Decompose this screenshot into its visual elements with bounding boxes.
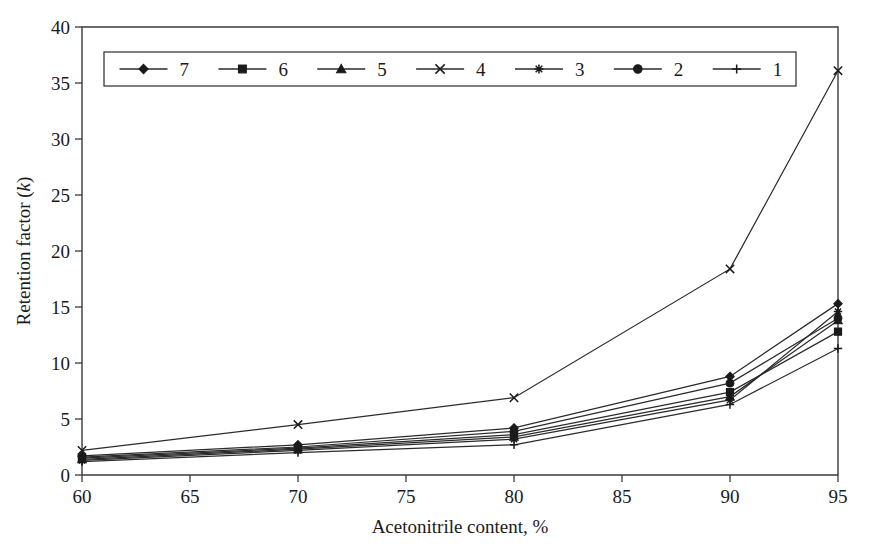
x-tick-label: 85 [613,486,632,507]
asterisk-marker-icon [534,64,543,73]
x-marker-icon [726,265,734,273]
y-axis-title: Retention factor (k) [13,177,35,326]
x-axis-title: Acetonitrile content, % [372,516,549,537]
chart-container: 05101520253035406065707580859095Acetonit… [0,0,882,556]
square-marker-icon [834,328,841,335]
y-tick-label: 20 [51,241,70,262]
circle-marker-icon [634,65,642,73]
y-axis-ticks: 05101520253035406065707580859095Acetonit… [13,17,848,538]
legend-label: 7 [180,59,190,80]
legend-label: 4 [476,59,486,80]
circle-marker-icon [726,379,734,387]
axis-titles: Acetonitrile content, %Retention factor … [13,52,842,537]
retention-factor-line-chart: 05101520253035406065707580859095Acetonit… [0,0,882,556]
x-tick-label: 95 [829,486,848,507]
circle-marker-icon [510,427,518,435]
legend-label: 3 [575,59,585,80]
chart-series [78,66,842,465]
legend-label: 5 [377,59,387,80]
series-line-7 [82,304,838,456]
circle-marker-icon [834,314,842,322]
square-marker-icon [238,65,246,73]
y-tick-label: 30 [51,129,70,150]
y-tick-label: 40 [51,17,70,38]
x-axis-ticks: 6065707580859095Acetonitrile content, %R… [13,52,848,537]
y-tick-label: 10 [51,353,70,374]
y-tick-label: 15 [51,297,70,318]
legend-label: 1 [773,59,783,80]
legend-label: 2 [674,59,684,80]
series-line-6 [82,332,838,459]
legend-label: 6 [278,59,288,80]
x-tick-label: 80 [505,486,524,507]
series-2 [78,314,842,461]
chart-legend: 7654321 [104,52,796,86]
x-tick-label: 70 [289,486,308,507]
y-tick-label: 0 [61,465,71,486]
plus-marker-icon [726,400,734,408]
plot-frame [82,27,838,475]
y-tick-label: 25 [51,185,70,206]
chart-axes: 05101520253035406065707580859095Acetonit… [13,17,848,538]
x-tick-label: 65 [181,486,200,507]
x-tick-label: 60 [73,486,92,507]
x-tick-label: 90 [721,486,740,507]
y-tick-label: 5 [61,409,71,430]
plus-marker-icon [834,344,842,352]
diamond-marker-icon [834,299,842,307]
x-tick-label: 75 [397,486,416,507]
y-tick-label: 35 [51,73,70,94]
